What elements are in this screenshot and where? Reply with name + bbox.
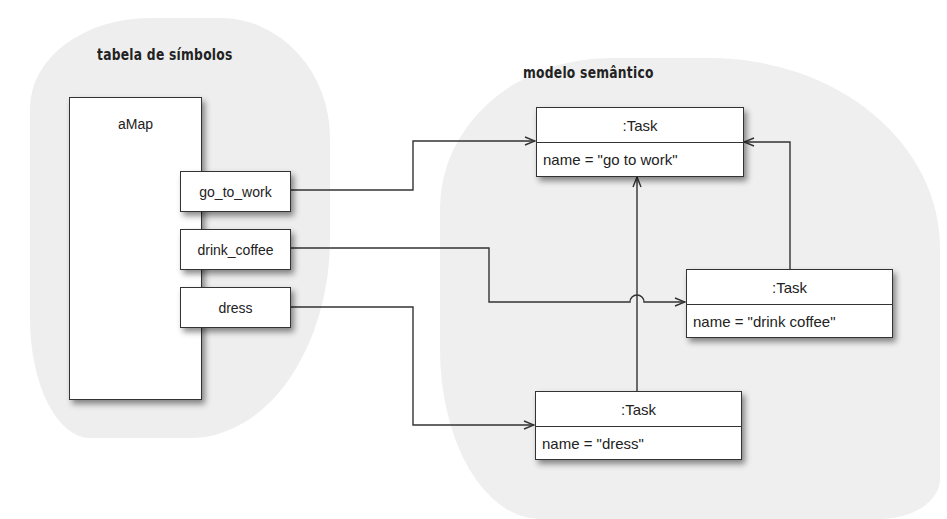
task-type-label: :Task bbox=[537, 108, 743, 143]
task-go-to-work: :Task name = "go to work" bbox=[536, 107, 744, 177]
task-type-label: :Task bbox=[536, 392, 741, 427]
task-name-attribute: name = "go to work" bbox=[537, 143, 743, 176]
task-type-label: :Task bbox=[687, 270, 892, 305]
task-name-attribute: name = "drink coffee" bbox=[687, 305, 892, 337]
entry-drink-coffee: drink_coffee bbox=[180, 229, 291, 270]
entry-dress: dress bbox=[180, 287, 291, 328]
task-drink-coffee: :Task name = "drink coffee" bbox=[686, 269, 893, 338]
entry-go-to-work: go_to_work bbox=[180, 171, 291, 212]
link-go-to-work bbox=[291, 141, 535, 190]
link-drink-coffee bbox=[291, 248, 685, 302]
amap-label: aMap bbox=[70, 116, 201, 132]
link-dress bbox=[291, 307, 534, 425]
link-drink-coffee-to-go-to-work bbox=[744, 142, 790, 269]
task-name-attribute: name = "dress" bbox=[536, 427, 741, 459]
task-dress: :Task name = "dress" bbox=[535, 391, 742, 460]
